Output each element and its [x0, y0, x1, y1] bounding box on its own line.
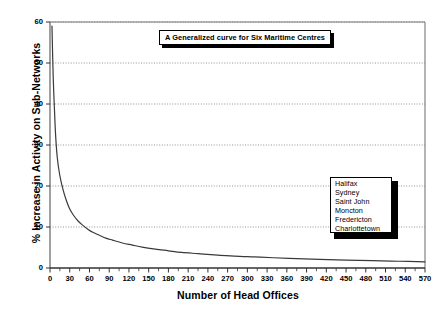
chart-title-callout: A Generalized curve for Six Maritime Cen… [159, 30, 331, 45]
y-tick-label: 20 [25, 181, 43, 190]
legend-item: Charlottetown [335, 225, 391, 234]
legend-callout: HalifaxSydneySaint JohnMonctonFredericto… [330, 177, 392, 233]
x-axis-title: Number of Head Offices [50, 289, 426, 301]
y-tick-label: 30 [25, 140, 43, 149]
y-tick-label: 60 [25, 17, 43, 26]
chart-container: % Increase in Activity on Sub-Networks N… [0, 0, 444, 317]
y-tick-label: 40 [25, 99, 43, 108]
chart-title-text: A Generalized curve for Six Maritime Cen… [165, 33, 325, 42]
y-tick-label: 10 [25, 222, 43, 231]
y-tick-label: 0 [25, 263, 43, 272]
x-tick-label: 570 [413, 274, 437, 283]
y-tick-label: 50 [25, 58, 43, 67]
chart-title-box: A Generalized curve for Six Maritime Cen… [159, 30, 331, 45]
legend-box: HalifaxSydneySaint JohnMonctonFredericto… [330, 177, 392, 233]
